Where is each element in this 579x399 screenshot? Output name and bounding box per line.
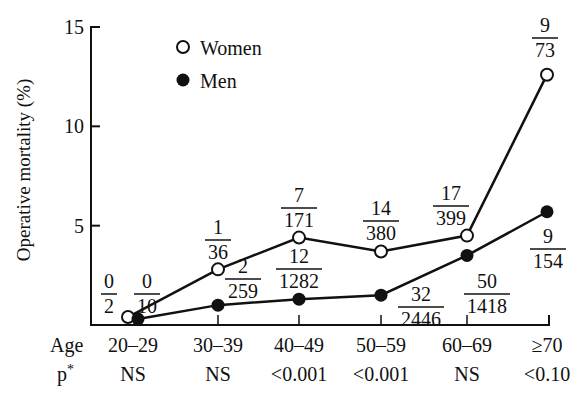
- p-value-label: <0.10: [524, 363, 570, 385]
- data-point: [293, 232, 305, 244]
- legend-men-marker: [177, 74, 190, 87]
- svg-text:12: 12: [289, 245, 309, 267]
- svg-text:10: 10: [137, 295, 157, 317]
- svg-text:9: 9: [543, 225, 553, 247]
- data-point: [293, 293, 306, 306]
- svg-text:17: 17: [441, 182, 461, 204]
- svg-text:50: 50: [477, 270, 497, 292]
- fraction-label: 322446: [398, 283, 444, 330]
- p-value-label: NS: [454, 363, 480, 385]
- fraction-label: 501418: [464, 270, 510, 317]
- svg-text:1282: 1282: [279, 270, 319, 292]
- svg-text:154: 154: [533, 250, 563, 272]
- category-label: 60–69: [442, 334, 492, 356]
- svg-text:259: 259: [228, 280, 258, 302]
- legend: Women Men: [177, 37, 262, 92]
- y-tick-label: 15: [64, 16, 84, 38]
- fraction-label: 02: [101, 270, 117, 317]
- mortality-chart: Operative mortality (%) 51015 0213671711…: [0, 0, 579, 399]
- p-row-label: p*: [57, 362, 74, 386]
- data-point: [461, 230, 473, 242]
- fraction-label: 17399: [433, 182, 469, 229]
- svg-text:1418: 1418: [467, 295, 507, 317]
- svg-text:2446: 2446: [401, 308, 441, 330]
- fraction-label: 973: [532, 14, 558, 61]
- svg-text:2: 2: [238, 255, 248, 277]
- y-tick-label: 5: [74, 215, 84, 237]
- svg-text:380: 380: [366, 222, 396, 244]
- data-point: [541, 69, 553, 81]
- svg-text:7: 7: [294, 184, 304, 206]
- data-point: [212, 299, 225, 312]
- svg-text:399: 399: [436, 207, 466, 229]
- p-value-label: <0.001: [353, 363, 409, 385]
- fraction-label: 7171: [281, 184, 317, 231]
- fraction-label: 14380: [363, 197, 399, 244]
- data-point: [375, 245, 387, 257]
- y-tick-label: 10: [64, 115, 84, 137]
- svg-text:9: 9: [540, 14, 550, 36]
- category-label: 20–29: [108, 334, 158, 356]
- data-point: [375, 289, 388, 302]
- legend-women-marker: [177, 41, 189, 53]
- svg-text:32: 32: [411, 283, 431, 305]
- category-label: 40–49: [274, 334, 324, 356]
- category-label: 50–59: [356, 334, 406, 356]
- category-labels: 20–29NS30–39NS40–49<0.00150–59<0.00160–6…: [108, 334, 570, 385]
- svg-text:0: 0: [142, 270, 152, 292]
- svg-text:2: 2: [104, 295, 114, 317]
- fraction-label: 136: [205, 216, 231, 263]
- legend-men-label: Men: [200, 70, 237, 92]
- data-point: [541, 205, 554, 218]
- age-row-label: Age: [50, 334, 83, 357]
- svg-text:0: 0: [104, 270, 114, 292]
- fraction-label: 010: [134, 270, 160, 317]
- p-value-label: NS: [120, 363, 146, 385]
- category-label: ≥70: [532, 334, 563, 356]
- p-value-label: NS: [205, 363, 231, 385]
- y-axis-label: Operative mortality (%): [13, 79, 35, 262]
- category-label: 30–39: [193, 334, 243, 356]
- svg-text:36: 36: [208, 241, 228, 263]
- svg-text:73: 73: [535, 39, 555, 61]
- fraction-label: 2259: [225, 255, 261, 302]
- data-point: [212, 263, 224, 275]
- y-ticks: 51015: [64, 16, 100, 237]
- svg-text:14: 14: [371, 197, 391, 219]
- p-value-label: <0.001: [271, 363, 327, 385]
- svg-text:1: 1: [213, 216, 223, 238]
- legend-women-label: Women: [200, 37, 262, 59]
- svg-text:171: 171: [284, 209, 314, 231]
- fraction-label: 121282: [276, 245, 322, 292]
- data-point: [461, 249, 474, 262]
- fraction-labels: 0213671711438017399973010225912128232244…: [101, 14, 566, 330]
- fraction-label: 9154: [530, 225, 566, 272]
